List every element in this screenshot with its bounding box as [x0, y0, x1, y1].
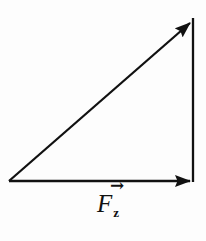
resultant-vector	[9, 23, 190, 181]
vector-lines-group	[9, 18, 193, 182]
force-symbol-subscript: z	[113, 205, 119, 220]
vector-arrow-icon: →	[95, 180, 139, 191]
vector-diagram: → Fz	[0, 0, 206, 241]
force-label: → Fz	[86, 180, 130, 217]
